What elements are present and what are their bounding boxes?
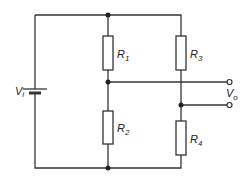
junction-dots [106, 13, 184, 171]
label-r4: R4 [190, 133, 203, 148]
resistor-r4 [176, 121, 186, 155]
battery-icon [23, 89, 47, 93]
output-terminal-bottom[interactable] [227, 103, 232, 108]
label-vi: Vi [15, 85, 24, 99]
circuit-diagram: Vi R1 R2 R3 R4 Vo [0, 0, 248, 180]
resistor-r1 [103, 36, 113, 70]
label-r2: R2 [117, 122, 130, 137]
label-r1: R1 [117, 48, 129, 63]
label-vo: Vo [226, 87, 238, 102]
label-r3: R3 [190, 48, 203, 63]
resistor-r3 [176, 36, 186, 70]
resistor-r2 [103, 111, 113, 144]
output-terminal-top[interactable] [227, 80, 232, 85]
